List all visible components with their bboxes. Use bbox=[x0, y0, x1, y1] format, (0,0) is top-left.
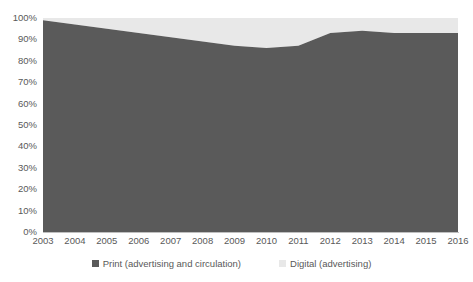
y-axis-tick-label: 10% bbox=[18, 205, 37, 217]
y-axis-tick-label: 20% bbox=[18, 183, 37, 195]
y-axis-tick-label: 90% bbox=[18, 33, 37, 45]
plot-svg bbox=[43, 18, 458, 232]
x-axis-line bbox=[43, 232, 459, 233]
legend-item-print[interactable]: Print (advertising and circulation) bbox=[92, 258, 241, 269]
legend-label-digital: Digital (advertising) bbox=[290, 258, 371, 269]
y-axis-tick-label: 70% bbox=[18, 76, 37, 88]
legend-item-digital[interactable]: Digital (advertising) bbox=[279, 258, 371, 269]
area-print bbox=[43, 20, 458, 232]
x-axis-tick-label: 2016 bbox=[438, 234, 473, 248]
x-axis: 2003200420052006200720082009201020112012… bbox=[43, 234, 459, 248]
plot-area bbox=[43, 18, 458, 232]
y-axis-tick-label: 80% bbox=[18, 55, 37, 67]
y-axis-tick-label: 100% bbox=[13, 12, 37, 24]
y-axis-tick-label: 40% bbox=[18, 140, 37, 152]
chart-legend: Print (advertising and circulation) Digi… bbox=[0, 256, 463, 270]
y-axis-tick-label: 30% bbox=[18, 162, 37, 174]
y-axis-tick-label: 60% bbox=[18, 98, 37, 110]
y-axis-tick-label: 50% bbox=[18, 119, 37, 131]
y-axis: 100%90%80%70%60%50%40%30%20%10%0% bbox=[0, 11, 40, 239]
legend-swatch-print bbox=[92, 260, 99, 267]
legend-swatch-digital bbox=[279, 260, 286, 267]
series-group bbox=[43, 18, 458, 232]
legend-label-print: Print (advertising and circulation) bbox=[103, 258, 241, 269]
